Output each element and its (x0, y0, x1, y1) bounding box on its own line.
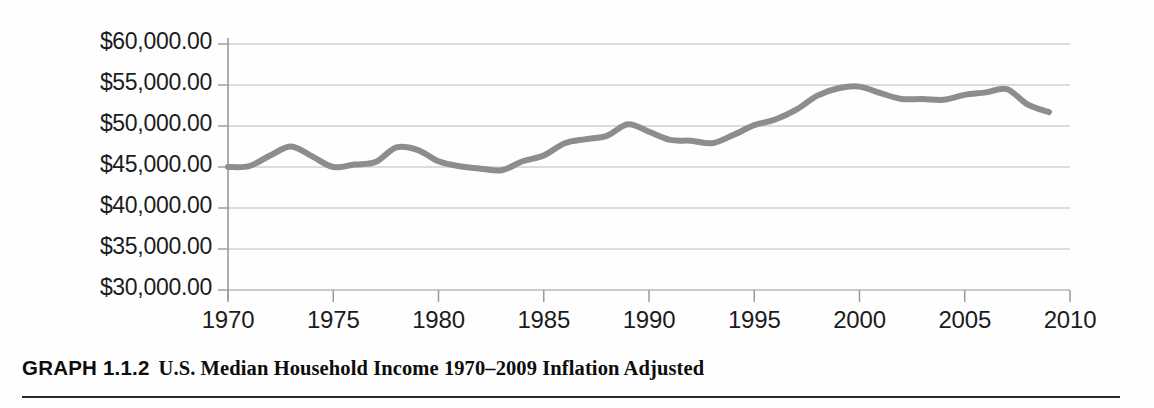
caption-title: U.S. Median Household Income 1970–2009 I… (159, 357, 705, 379)
y-axis-tick-labels: $60,000.00$55,000.00$50,000.00$45,000.00… (40, 0, 212, 310)
caption-number: GRAPH 1.1.2 (22, 356, 150, 379)
y-axis-tick-label: $60,000.00 (42, 28, 212, 55)
x-axis-tick-label: 1985 (489, 306, 599, 334)
x-axis-tick-label: 2010 (1015, 306, 1125, 334)
x-axis-tick-label: 2000 (805, 306, 915, 334)
x-axis-tick-label: 2005 (910, 306, 1020, 334)
caption-divider-rule (22, 396, 1120, 398)
y-axis-tick-label: $50,000.00 (42, 110, 212, 137)
chart-plot-area: $60,000.00$55,000.00$50,000.00$45,000.00… (0, 0, 1154, 348)
x-axis-tick-label: 1980 (384, 306, 494, 334)
y-axis-tick-label: $30,000.00 (42, 274, 212, 301)
y-axis-tick-label: $35,000.00 (42, 233, 212, 260)
figure-caption: GRAPH 1.1.2U.S. Median Household Income … (22, 356, 1132, 380)
income-series-line (228, 86, 1049, 170)
x-axis-tick-label: 1990 (594, 306, 704, 334)
x-axis-tick-label: 1995 (699, 306, 809, 334)
x-axis-tick-label: 1970 (173, 306, 283, 334)
y-axis-tick-label: $55,000.00 (42, 69, 212, 96)
x-axis-tick-labels: 197019751980198519901995200020052010 (0, 306, 1154, 346)
y-axis-tick-label: $45,000.00 (42, 151, 212, 178)
x-axis-tick-label: 1975 (278, 306, 388, 334)
y-axis-tick-label: $40,000.00 (42, 192, 212, 219)
figure-container: $60,000.00$55,000.00$50,000.00$45,000.00… (0, 0, 1154, 408)
axis-ticks-group (218, 44, 1070, 302)
